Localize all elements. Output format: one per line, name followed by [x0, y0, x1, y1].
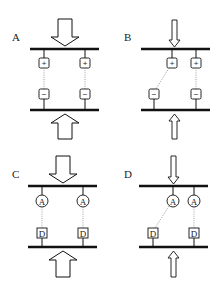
- up-arrow-icon: [51, 114, 79, 139]
- panel-b: B + + − −: [124, 20, 210, 139]
- down-arrow-icon: [169, 20, 180, 47]
- plus-symbol: +: [83, 59, 88, 68]
- down-arrow-icon: [49, 156, 77, 183]
- panel-label-c: C: [12, 168, 19, 180]
- a-symbol: A: [39, 197, 46, 207]
- d-symbol: D: [80, 229, 87, 239]
- a-symbol: A: [170, 197, 177, 207]
- up-arrow-icon: [168, 251, 179, 277]
- up-arrow-icon: [169, 114, 180, 139]
- panel-label-b: B: [124, 31, 131, 43]
- down-arrow-icon: [168, 156, 179, 184]
- plus-symbol: +: [42, 59, 47, 68]
- dotted-link-diagonal: [155, 206, 169, 228]
- minus-symbol: −: [194, 90, 199, 99]
- a-symbol: A: [191, 197, 198, 207]
- minus-symbol: −: [42, 90, 47, 99]
- plus-symbol: +: [194, 59, 199, 68]
- panel-label-a: A: [12, 31, 20, 43]
- down-arrow-icon: [51, 19, 79, 46]
- d-symbol: D: [191, 229, 198, 239]
- diagram-canvas: A + + − − B + + − −: [0, 0, 222, 287]
- panel-label-d: D: [124, 168, 132, 180]
- dotted-link-diagonal: [156, 68, 169, 89]
- up-arrow-icon: [49, 251, 77, 277]
- minus-symbol: −: [83, 90, 88, 99]
- d-symbol: D: [150, 229, 157, 239]
- plus-symbol: +: [170, 59, 175, 68]
- d-symbol: D: [39, 229, 46, 239]
- panel-c: C A A D D: [12, 156, 97, 277]
- panel-d: D A A D D: [124, 156, 208, 277]
- panel-a: A + + − −: [12, 19, 99, 139]
- a-symbol: A: [80, 197, 87, 207]
- minus-symbol: −: [152, 90, 157, 99]
